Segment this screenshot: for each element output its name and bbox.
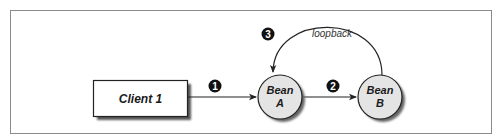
- bean-a-label-line1: Bean: [267, 84, 294, 96]
- bean-b-label-line2: B: [376, 97, 384, 109]
- step-badge-3-label: 3: [265, 29, 271, 40]
- loopback-label: loopback: [312, 28, 353, 39]
- diagram-frame: [11, 11, 492, 134]
- step-badge-1: 1: [209, 80, 222, 93]
- step-badge-3: 3: [262, 28, 275, 41]
- bean-a-label-line2: A: [275, 97, 284, 109]
- client-label: Client 1: [119, 92, 163, 106]
- bean-b-label-line1: Bean: [367, 84, 394, 96]
- step-badge-2: 2: [327, 80, 340, 93]
- diagram-canvas: Client 1 Bean A Bean B loopback 1 2 3: [0, 0, 501, 137]
- client-node[interactable]: Client 1: [94, 81, 192, 121]
- step-badge-1-label: 1: [212, 81, 218, 92]
- step-badge-2-label: 2: [330, 81, 336, 92]
